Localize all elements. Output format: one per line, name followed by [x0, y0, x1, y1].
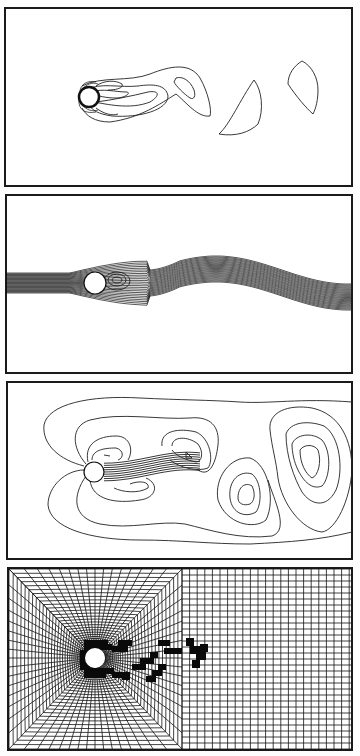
refined-cell [100, 644, 112, 650]
refined-cell [196, 652, 206, 660]
refined-cell [146, 676, 156, 682]
refined-cell [152, 670, 162, 676]
refined-cell [158, 664, 166, 670]
refined-cell [150, 652, 158, 658]
panel-pressure [7, 382, 352, 559]
refined-cell [122, 676, 130, 680]
panel-frame [5, 8, 352, 186]
figure [0, 0, 360, 756]
cylinder [79, 87, 99, 107]
cylinder [84, 462, 104, 482]
panel-vorticity [5, 8, 352, 186]
refined-cell [200, 644, 208, 652]
cylinder [85, 648, 105, 668]
refined-cell [112, 646, 128, 652]
refined-cell [158, 640, 170, 646]
refined-cell [186, 638, 194, 646]
panel-mesh [8, 568, 352, 750]
refined-cell [164, 648, 182, 654]
refined-cell [118, 640, 132, 646]
refined-cell [100, 668, 114, 674]
refined-cell [192, 660, 200, 668]
panel-streaklines [6, 195, 352, 373]
cylinder [84, 272, 106, 294]
refined-cell [132, 664, 146, 670]
refined-cell [140, 658, 154, 664]
